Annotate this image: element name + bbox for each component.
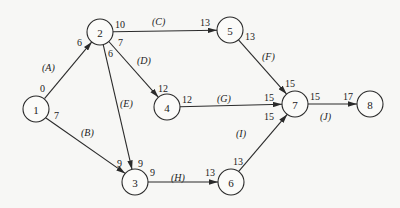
edge-2-4-D — [109, 42, 159, 98]
time-label-A-end: 6 — [77, 37, 82, 48]
edge-2-5-C — [113, 30, 217, 32]
node-6: 6 — [218, 169, 244, 195]
time-label-J-end: 17 — [343, 91, 353, 102]
time-label-E-end: 9 — [138, 158, 143, 169]
svg-text:4: 4 — [164, 102, 170, 114]
time-label-B-start: 7 — [54, 110, 59, 121]
svg-text:5: 5 — [227, 25, 233, 37]
activity-label-J: (J) — [320, 111, 332, 123]
activity-label-B: (B) — [81, 127, 94, 139]
time-label-E-start: 6 — [108, 48, 113, 59]
edge-4-7-G — [180, 104, 282, 106]
node-8: 8 — [357, 91, 383, 117]
svg-text:6: 6 — [228, 177, 234, 189]
time-label-B-end: 9 — [117, 158, 122, 169]
time-label-F-end: 15 — [285, 78, 295, 89]
edge-5-7-F — [239, 40, 287, 94]
time-label-C-end: 13 — [200, 17, 210, 28]
svg-text:1: 1 — [33, 104, 39, 116]
time-label-H-start: 9 — [150, 167, 155, 178]
activity-label-A: (A) — [42, 62, 55, 74]
time-label-A-start: 0 — [40, 83, 45, 94]
node-7: 7 — [282, 91, 308, 117]
time-label-I-end: 15 — [264, 111, 274, 122]
time-label-H-end: 13 — [205, 167, 215, 178]
time-label-D-end: 12 — [158, 83, 168, 94]
node-5: 5 — [217, 17, 243, 43]
node-1: 1 — [23, 96, 49, 122]
svg-text:2: 2 — [97, 27, 103, 39]
node-3: 3 — [122, 169, 148, 195]
time-label-J-start: 15 — [310, 91, 320, 102]
activity-label-G: (G) — [217, 93, 232, 105]
activity-label-I: (I) — [236, 128, 247, 140]
time-label-G-end: 15 — [264, 92, 274, 103]
activity-label-H: (H) — [171, 172, 186, 184]
activity-label-F: (F) — [262, 51, 275, 63]
activity-label-E: (E) — [120, 98, 133, 110]
edge-6-7-I — [239, 114, 288, 171]
svg-text:3: 3 — [132, 177, 138, 189]
svg-text:8: 8 — [367, 99, 373, 111]
activity-label-D: (D) — [137, 55, 152, 67]
time-label-I-start: 13 — [233, 156, 243, 167]
node-4: 4 — [154, 94, 180, 120]
time-label-G-start: 12 — [182, 94, 192, 105]
time-label-D-start: 7 — [118, 37, 123, 48]
time-label-C-start: 10 — [115, 19, 125, 30]
activity-label-C: (C) — [152, 16, 166, 28]
time-label-F-start: 13 — [245, 31, 255, 42]
svg-text:7: 7 — [292, 99, 298, 111]
node-2: 2 — [87, 19, 113, 45]
network-diagram: 1 2 3 4 5 6 7 8 (A) (B) (C) (D) (E) (F) … — [0, 0, 400, 208]
